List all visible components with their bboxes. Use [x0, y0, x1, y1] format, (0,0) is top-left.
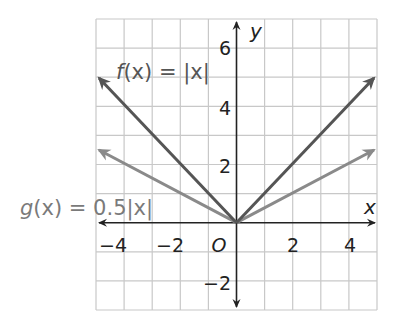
origin-label: O	[212, 234, 227, 256]
x-axis-label: x	[363, 195, 376, 219]
y-tick-label: 6	[219, 37, 231, 59]
y-tick-label: 4	[219, 97, 231, 119]
x-tick-label: 4	[344, 234, 356, 256]
absolute-value-graph: −4 −2 2 4 6 4 2 −2 O x y f(x) = |x| g(x)…	[0, 0, 393, 322]
x-tick-label: −4	[99, 234, 127, 256]
y-axis-label: y	[249, 19, 263, 43]
f-annotation: f(x) = |x|	[116, 60, 210, 85]
y-tick-label: −2	[203, 272, 231, 294]
x-tick-label: −2	[156, 234, 184, 256]
g-annotation: g(x) = 0.5|x|	[20, 196, 153, 221]
y-tick-label: 2	[219, 155, 231, 177]
x-tick-label: 2	[287, 234, 299, 256]
